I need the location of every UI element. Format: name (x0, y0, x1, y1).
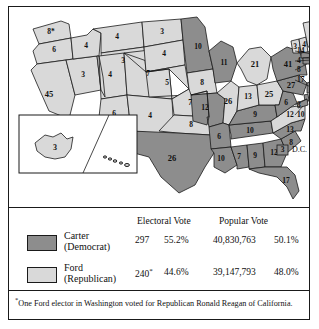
state-label-WY: 3 (121, 56, 125, 65)
legend-footnote-divider (9, 290, 309, 291)
carter-popular-pct: 50.1% (274, 235, 299, 245)
legend-swatch-carter (27, 235, 57, 251)
ford-electoral-asterisk: * (149, 267, 153, 275)
state-label-SD: 4 (162, 49, 166, 58)
state-label-TN: 10 (246, 126, 254, 135)
legend-row-carter: Carter (Democrat) 297 55.2% 40,830,763 5… (9, 232, 309, 262)
state-FL (249, 167, 299, 199)
ford-popular-votes: 39,147,793 (213, 267, 256, 277)
state-label-AK: 3 (53, 143, 57, 152)
state-label-CO: 7 (146, 69, 150, 78)
state-label-VA: 12 (286, 110, 294, 119)
dc-vote-label: 3 (281, 145, 285, 154)
state-label-NE: 5 (165, 78, 169, 87)
carter-electoral-pct: 55.2% (164, 235, 189, 245)
ford-popular-pct: 48.0% (274, 267, 299, 277)
state-label-CA: 45 (45, 89, 54, 99)
legend-party-ford-name: Ford (64, 262, 83, 273)
state-label-PA: 27 (287, 80, 296, 90)
state-label-ID: 4 (84, 41, 88, 50)
ford-electoral-votes: 240* (135, 267, 153, 279)
state-label-AL: 9 (253, 151, 257, 160)
state-label-UT: 4 (108, 70, 112, 79)
leader-label-CT: 8 (297, 65, 301, 74)
state-label-MO: 12 (201, 103, 209, 112)
popular-vote-header: Popular Vote (219, 216, 268, 226)
leader-label-NJ: 17 (297, 75, 305, 84)
state-label-LA: 10 (217, 154, 225, 163)
state-label-MN: 10 (194, 42, 202, 51)
state-CT (303, 58, 309, 64)
dc-name-label: D.C. (292, 145, 307, 154)
state-label-WV: 6 (284, 98, 288, 107)
state-label-ND: 3 (160, 27, 164, 36)
us-map-svg: 8*64534434674345782610812610112679109132… (9, 7, 309, 207)
electoral-vote-header: Electoral Vote (137, 216, 191, 226)
carter-popular-votes: 40,830,763 (213, 235, 256, 245)
legend-party-carter-affiliation: (Democrat) (64, 241, 110, 252)
electoral-map: 8*64534434674345782610812610112679109132… (9, 7, 309, 207)
legend-party-carter-name: Carter (64, 230, 89, 241)
state-label-OH: 25 (265, 89, 274, 99)
leader-label-DE: 3 (297, 100, 301, 109)
state-label-KY: 9 (253, 110, 257, 119)
state-label-IN: 13 (244, 92, 252, 101)
state-label-NM: 4 (148, 111, 152, 120)
state-label-NC: 13 (286, 125, 294, 134)
state-label-WA: 8* (47, 27, 55, 36)
state-label-IL: 26 (224, 96, 233, 106)
carter-electoral-votes: 297 (135, 235, 149, 245)
state-label-AR: 6 (217, 132, 221, 141)
legend-swatch-ford (27, 267, 57, 283)
ford-electoral-pct: 44.6% (164, 267, 189, 277)
infographic-frame: 8*64534434674345782610812610112679109132… (8, 6, 310, 320)
state-label-WI: 11 (220, 58, 227, 67)
legend-table: Electoral Vote Popular Vote Carter (Demo… (9, 208, 309, 290)
state-label-FL: 17 (282, 176, 290, 185)
legend-party-ford: Ford (Republican) (64, 262, 116, 284)
state-label-TX: 26 (168, 153, 177, 163)
footnote: *One Ford elector in Washington voted fo… (15, 295, 307, 309)
state-label-NY: 41 (284, 59, 293, 69)
alaska-hawaii-inset: 3 (19, 115, 137, 173)
state-label-MI: 21 (251, 59, 260, 69)
state-label-MS: 7 (237, 152, 241, 161)
state-NJ (307, 81, 309, 93)
state-label-OK: 8 (189, 120, 193, 129)
leader-label-RI: 4 (297, 56, 301, 65)
legend-party-carter: Carter (Democrat) (64, 230, 110, 252)
state-label-OR: 6 (52, 45, 56, 54)
leader-label-MD: 10 (297, 110, 305, 119)
state-label-IA: 8 (200, 78, 204, 87)
state-label-MT: 4 (115, 32, 119, 41)
ford-electoral-votes-value: 240 (135, 269, 149, 279)
leader-label-MA: 14 (297, 46, 305, 55)
state-label-KS: 7 (188, 98, 192, 107)
footnote-text: One Ford elector in Washington voted for… (18, 299, 292, 308)
legend-party-ford-affiliation: (Republican) (64, 273, 116, 284)
state-label-NV: 3 (81, 70, 85, 79)
dc-callout: 3 D.C. (277, 145, 307, 155)
